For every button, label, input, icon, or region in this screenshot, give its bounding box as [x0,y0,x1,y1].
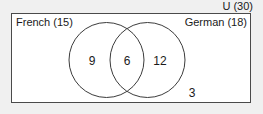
region-count-neither: 3 [189,86,196,100]
set-label-french: French (15) [16,16,73,29]
circle-german [110,23,185,98]
venn-diagram: U (30) French (15) German (18) 9 6 12 3 [0,0,263,114]
set-label-german: German (18) [185,16,247,29]
circle-french [69,23,144,98]
region-count-german-only: 12 [153,54,166,68]
region-count-both: 6 [124,54,131,68]
region-count-french-only: 9 [89,54,96,68]
